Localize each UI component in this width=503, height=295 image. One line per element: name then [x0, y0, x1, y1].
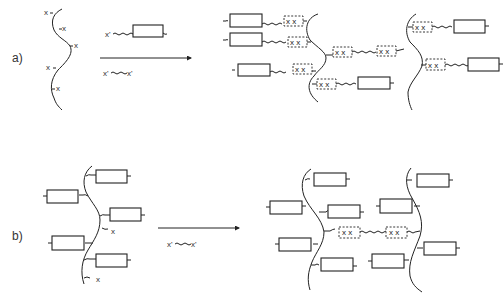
- pendant: [43, 190, 88, 203]
- svg-text:x x: x x: [379, 47, 389, 56]
- pendant: [275, 238, 318, 251]
- pendant-group: x x: [312, 77, 394, 89]
- pendant: [86, 170, 131, 183]
- svg-text:x: x: [56, 84, 60, 93]
- svg-text:x x: x x: [319, 80, 329, 89]
- pendant-group: x x: [408, 20, 489, 33]
- pendant: [266, 201, 306, 214]
- svg-text:x': x': [167, 240, 173, 249]
- pendant-group: x x: [223, 14, 307, 27]
- svg-text:x x: x x: [335, 48, 345, 57]
- pendant: [407, 174, 453, 187]
- free-site: [84, 277, 90, 278]
- pendant-group: x x: [232, 64, 316, 76]
- diagram-canvas: a) x x x x x x' x' x': [0, 0, 503, 295]
- svg-text:x: x: [111, 227, 115, 236]
- panel-b-label: b): [12, 229, 23, 243]
- svg-text:x: x: [62, 24, 66, 33]
- panel-b: b) x x: [12, 166, 460, 292]
- reagent-bifunctional: x' x': [167, 240, 197, 249]
- svg-text:x x: x x: [428, 61, 438, 70]
- svg-text:x': x': [191, 240, 197, 249]
- panel-a: a) x x x x x x' x' x': [12, 8, 503, 110]
- svg-text:x': x': [105, 30, 111, 39]
- svg-text:x': x': [127, 69, 133, 78]
- crosslink-bridge: x x x x: [324, 227, 420, 238]
- pendant: [48, 236, 93, 250]
- pendant: [311, 258, 357, 271]
- svg-text:x': x': [103, 69, 109, 78]
- crosslink-bridge: x x x x: [326, 46, 404, 57]
- pendant: [319, 205, 364, 218]
- pendant-group: x x: [421, 58, 503, 71]
- free-site: [102, 228, 108, 229]
- svg-text:x x: x x: [290, 38, 300, 47]
- pendant-group: x x: [223, 33, 311, 47]
- pendant: [305, 173, 350, 186]
- pendant: [417, 242, 460, 255]
- svg-text:x: x: [74, 41, 78, 50]
- svg-text:x x: x x: [342, 228, 352, 237]
- reagent-monofunctional: x': [105, 25, 167, 39]
- svg-text:x: x: [96, 275, 100, 284]
- pendant: [100, 208, 145, 221]
- product-backbone-left: [302, 169, 324, 290]
- reagent-bifunctional: x' x': [103, 69, 133, 78]
- svg-text:x: x: [46, 63, 50, 72]
- svg-text:x x: x x: [389, 228, 399, 237]
- pendant: [84, 254, 131, 267]
- reactive-sites: x x x x x: [44, 8, 78, 93]
- svg-text:x x: x x: [415, 23, 425, 32]
- panel-a-label: a): [12, 51, 23, 65]
- pendant: [368, 254, 409, 268]
- svg-text:x x: x x: [295, 65, 305, 74]
- svg-text:x x: x x: [286, 17, 296, 26]
- svg-text:x: x: [44, 8, 48, 17]
